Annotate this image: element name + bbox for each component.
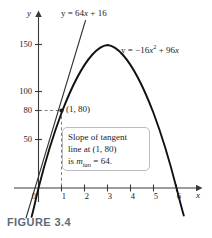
tangent-equation-suffix: + 16 bbox=[88, 8, 107, 18]
x-tick-label-4: 4 bbox=[126, 191, 135, 201]
x-tick-label-5: 5 bbox=[149, 191, 158, 201]
y-tick-label-50: 50 bbox=[10, 134, 32, 144]
callout-line-3-suffix: = 64. bbox=[91, 156, 112, 166]
y-tick-label-150: 150 bbox=[10, 39, 32, 49]
parabola-equation-suffix: + 96 bbox=[156, 45, 175, 55]
plot-area bbox=[0, 0, 212, 238]
tangent-equation-prefix: y = 64 bbox=[61, 8, 84, 18]
tangency-point bbox=[59, 108, 63, 112]
y-axis-label: y bbox=[27, 8, 31, 18]
figure-caption: FIGURE 3.4 bbox=[7, 216, 71, 228]
x-tick-label-2: 2 bbox=[80, 191, 89, 201]
y-tick-label-80: 80 bbox=[10, 105, 32, 115]
callout-line-3: is mtan = 64. bbox=[68, 155, 145, 167]
x-tick-label-1: 1 bbox=[57, 191, 66, 201]
tangent-equation-label: y = 64x + 16 bbox=[61, 8, 107, 18]
parabola-equation-prefix: y = −16 bbox=[121, 45, 149, 55]
callout-line-1: Slope of tangent bbox=[68, 131, 145, 143]
x-tick-label-3: 3 bbox=[103, 191, 112, 201]
callout-line-2: line at (1, 80) bbox=[68, 143, 145, 155]
x-tick-label-6: 6 bbox=[172, 191, 181, 201]
parabola-equation-variable-2: x bbox=[175, 45, 179, 55]
slope-callout-box: Slope of tangent line at (1, 80) is mtan… bbox=[62, 127, 150, 171]
x-axis-label: x bbox=[196, 190, 200, 200]
figure-container: y x 150 100 80 50 0 1 2 3 4 5 6 y = 64x … bbox=[0, 0, 212, 238]
parabola-equation-label: y = −16x2 + 96x bbox=[121, 45, 179, 55]
y-tick-label-100: 100 bbox=[10, 86, 32, 96]
x-tick-label-0: 0 bbox=[27, 191, 36, 201]
callout-slope-subscript: tan bbox=[83, 161, 91, 168]
tangency-point-label: (1, 80) bbox=[66, 104, 90, 114]
